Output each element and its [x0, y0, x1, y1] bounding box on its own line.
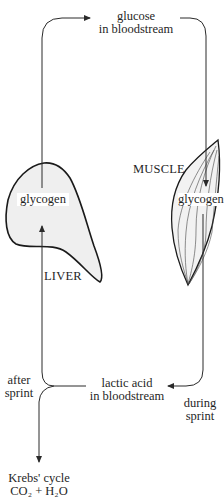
lactic-acid-label: lactic acid in bloodstream	[86, 377, 168, 403]
krebs-cycle-label: Krebs' cycle CO₂ + H₂O	[4, 472, 74, 498]
arrow-lactic-to-liver	[42, 226, 54, 386]
after-sprint-label: after sprint	[1, 374, 37, 400]
during-sprint-label: during sprint	[176, 397, 224, 423]
cori-cycle-diagram	[0, 0, 224, 499]
liver-label: LIVER	[44, 270, 82, 283]
glucose-label: glucose in bloodstream	[92, 10, 180, 36]
muscle-glycogen-label: glycogen	[178, 193, 224, 206]
liver-shape	[6, 163, 102, 282]
liver-glycogen-label: glycogen	[17, 193, 69, 206]
arrow-lactic-to-krebs	[39, 386, 54, 462]
muscle-label: MUSCLE	[133, 163, 185, 176]
